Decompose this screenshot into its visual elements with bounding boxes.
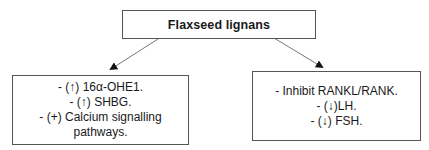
right-effect-item: - (↓) FSH. <box>311 114 363 129</box>
root-node-box: Flaxseed lignans <box>122 10 316 39</box>
left-effects-box: - (↑) 16α-OHE1. - (↑) SHBG. - (+) Calciu… <box>12 75 189 145</box>
left-effect-item: - (↑) SHBG. <box>70 95 132 110</box>
right-effect-item: - Inhibit RANKL/RANK. <box>275 84 398 99</box>
left-effect-item: - (+) Calcium signalling <box>39 110 161 125</box>
root-node-label: Flaxseed lignans <box>168 18 270 32</box>
left-effect-item: - (↑) 16α-OHE1. <box>58 80 143 95</box>
arrow-to-left-box <box>111 39 158 69</box>
right-effects-box: - Inhibit RANKL/RANK. - (↓)LH. - (↓) FSH… <box>252 71 421 141</box>
right-effect-item: - (↓)LH. <box>317 99 357 114</box>
left-effect-item: pathways. <box>73 125 127 140</box>
arrow-to-right-box <box>274 38 322 67</box>
